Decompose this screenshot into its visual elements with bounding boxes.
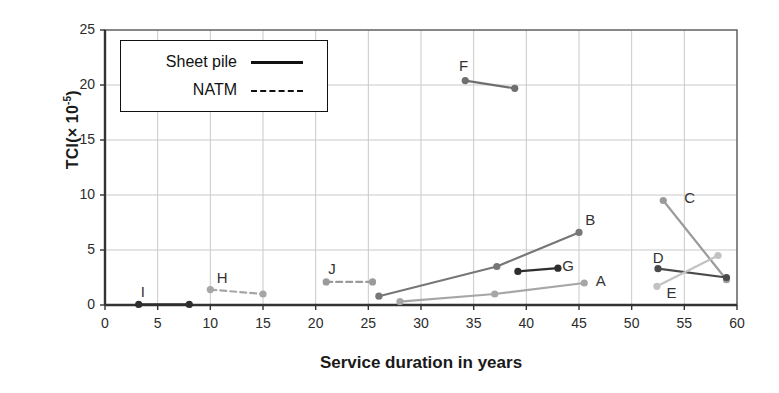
x-tick-label: 60 [720, 315, 754, 331]
x-tick-label: 20 [299, 315, 333, 331]
series-line-g [518, 268, 558, 271]
x-tick-label: 15 [246, 315, 280, 331]
legend-swatch-solid [249, 55, 313, 69]
data-point-h [259, 290, 266, 297]
y-tick-label: 20 [61, 76, 95, 92]
x-tick-label: 0 [88, 315, 122, 331]
data-point-j [323, 278, 330, 285]
data-point-e [653, 283, 660, 290]
data-point-c [660, 197, 667, 204]
data-point-a [396, 298, 403, 305]
data-point-d [723, 274, 730, 281]
data-point-f [511, 85, 518, 92]
data-point-b [375, 293, 382, 300]
series-label-j: J [328, 260, 336, 277]
series-label-g: G [562, 257, 574, 274]
y-tick-label: 15 [61, 131, 95, 147]
data-point-a [491, 290, 498, 297]
y-tick-label: 5 [61, 241, 95, 257]
data-point-g [554, 265, 561, 272]
x-tick-label: 25 [351, 315, 385, 331]
plot-canvas [0, 0, 779, 393]
chart-figure: TCI(× 10-5) Service duration in years 05… [0, 0, 779, 393]
series-line-f [465, 81, 515, 89]
data-point-d [654, 265, 661, 272]
x-tick-label: 10 [193, 315, 227, 331]
legend-item-natm: NATM [121, 75, 329, 105]
y-tick-label: 25 [61, 21, 95, 37]
series-line-e [657, 256, 718, 287]
series-label-b: B [585, 211, 595, 228]
data-point-b [493, 263, 500, 270]
data-point-i [135, 301, 142, 308]
data-point-g [514, 268, 521, 275]
x-tick-label: 30 [404, 315, 438, 331]
legend-label-sheet-pile: Sheet pile [121, 53, 249, 71]
data-point-i [186, 301, 193, 308]
x-tick-label: 35 [457, 315, 491, 331]
series-label-d: D [653, 249, 664, 266]
x-tick-label: 40 [509, 315, 543, 331]
legend-label-natm: NATM [121, 81, 249, 99]
legend-swatch-dashed [249, 83, 313, 97]
y-tick-label: 10 [61, 186, 95, 202]
data-point-f [462, 77, 469, 84]
series-line-d [658, 269, 726, 278]
legend: Sheet pile NATM [120, 40, 328, 112]
data-point-a [581, 279, 588, 286]
series-label-h: H [217, 269, 228, 286]
x-tick-label: 55 [667, 315, 701, 331]
series-label-i: I [141, 283, 145, 300]
data-point-j [369, 278, 376, 285]
data-point-h [207, 286, 214, 293]
legend-item-sheet-pile: Sheet pile [121, 47, 329, 77]
data-point-e [714, 252, 721, 259]
y-tick-label: 0 [61, 296, 95, 312]
data-point-b [575, 229, 582, 236]
series-label-e: E [666, 284, 676, 301]
series-label-f: F [459, 57, 468, 74]
series-label-c: C [684, 189, 695, 206]
series-label-a: A [596, 272, 606, 289]
x-tick-label: 50 [615, 315, 649, 331]
x-tick-label: 5 [141, 315, 175, 331]
series-line-h [210, 290, 263, 294]
x-tick-label: 45 [562, 315, 596, 331]
